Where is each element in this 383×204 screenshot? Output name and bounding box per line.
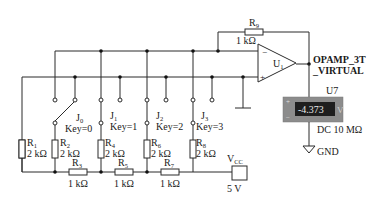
opamp-u1: − + U1 OPAMP_3T _VIRTUAL <box>258 44 366 82</box>
svg-text:R3: R3 <box>72 157 82 169</box>
svg-text:R7: R7 <box>164 157 175 169</box>
svg-text:+: + <box>260 72 265 82</box>
resistor-r5: R5 1 kΩ <box>114 157 134 189</box>
inverting-rail <box>55 49 258 100</box>
resistor-r7: R7 1 kΩ <box>160 157 180 189</box>
svg-text:1 kΩ: 1 kΩ <box>236 35 256 46</box>
switch-j2-key: Key=2 <box>156 121 183 132</box>
svg-text:−: − <box>286 114 290 122</box>
switch-j3-key: Key=3 <box>196 121 223 132</box>
switch-j3[interactable]: J3 Key=3 <box>191 98 223 140</box>
svg-text:2 kΩ: 2 kΩ <box>196 148 216 159</box>
svg-text:5 V: 5 V <box>227 183 242 194</box>
svg-text:V: V <box>337 105 344 115</box>
svg-text:R5: R5 <box>118 157 128 169</box>
resistor-r8: R8 2 kΩ <box>190 137 216 172</box>
resistor-r3: R3 1 kΩ <box>68 157 88 189</box>
switch-j0-key: Key=0 <box>65 123 92 134</box>
switch-j1[interactable]: J1 Key=1 <box>99 98 137 140</box>
svg-text:−: − <box>262 47 267 57</box>
svg-text:VCC: VCC <box>227 153 243 165</box>
svg-text:U7: U7 <box>326 85 338 96</box>
svg-text:+: + <box>286 98 290 106</box>
opamp-model-line1: OPAMP_3T <box>313 54 366 65</box>
opamp-model-line2: _VIRTUAL <box>312 65 364 76</box>
ground-label: GND <box>317 146 339 157</box>
vcc-source: VCC 5 V <box>227 153 247 194</box>
voltmeter-reading: -4.373 <box>298 104 324 115</box>
switch-j0[interactable]: J0 Key=0 <box>53 98 92 140</box>
svg-text:R9: R9 <box>249 17 259 29</box>
voltmeter-u7[interactable]: U7 -4.373 V + − DC 10 MΩ <box>283 64 362 146</box>
svg-text:1 kΩ: 1 kΩ <box>68 178 88 189</box>
circuit-diagram: J0 Key=0 J1 Key=1 J2 Key=2 J3 Key=3 R1 2… <box>0 0 383 204</box>
switch-j1-key: Key=1 <box>110 121 137 132</box>
ground-icon: GND <box>303 146 339 157</box>
svg-text:1 kΩ: 1 kΩ <box>114 178 134 189</box>
svg-text:1 kΩ: 1 kΩ <box>160 178 180 189</box>
switch-j2[interactable]: J2 Key=2 <box>145 98 183 140</box>
voltmeter-mode: DC 10 MΩ <box>317 124 362 135</box>
svg-text:2 kΩ: 2 kΩ <box>27 148 47 159</box>
